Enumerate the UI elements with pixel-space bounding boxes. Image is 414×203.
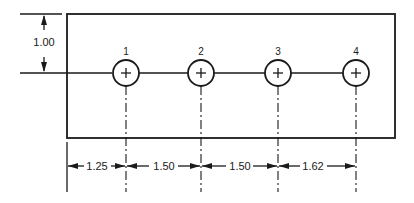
- arrowhead-left: [279, 163, 289, 169]
- hole-2: 2: [188, 46, 214, 86]
- horizontal-dimensions: 1.25 1.50 1.50 1.62: [68, 160, 355, 172]
- hole-4: 4: [343, 46, 369, 86]
- arrowhead-down: [41, 62, 47, 72]
- dimension-1-25: 1.25: [68, 160, 125, 172]
- arrowhead-right: [267, 163, 277, 169]
- arrowhead-left: [127, 163, 137, 169]
- dimension-label: 1.50: [229, 160, 250, 172]
- arrowhead-right: [115, 163, 125, 169]
- vertical-dimension: 1.00: [20, 14, 112, 73]
- dimension-1-62: 1.62: [279, 160, 355, 172]
- arrowhead-left: [68, 163, 78, 169]
- dimension-1-50-a: 1.50: [127, 160, 200, 172]
- dimension-1-50-b: 1.50: [202, 160, 277, 172]
- dimension-label-vertical: 1.00: [33, 36, 54, 48]
- hole-3: 3: [265, 46, 291, 86]
- arrowhead-right: [190, 163, 200, 169]
- dimension-label: 1.25: [86, 160, 107, 172]
- hole-label: 4: [353, 46, 359, 57]
- arrowhead-left: [202, 163, 212, 169]
- hole-pattern: 1 2 3 4: [113, 46, 369, 86]
- hole-label: 1: [123, 46, 129, 57]
- hole-label: 3: [275, 46, 281, 57]
- arrowhead-up: [41, 15, 47, 25]
- hole-1: 1: [113, 46, 139, 86]
- extension-lines: [67, 86, 356, 192]
- dimension-label: 1.62: [302, 160, 323, 172]
- dimension-label: 1.50: [153, 160, 174, 172]
- hole-label: 2: [198, 46, 204, 57]
- arrowhead-right: [345, 163, 355, 169]
- plate-outline: [67, 14, 395, 138]
- technical-drawing: 1.00 1 2 3 4: [0, 0, 414, 203]
